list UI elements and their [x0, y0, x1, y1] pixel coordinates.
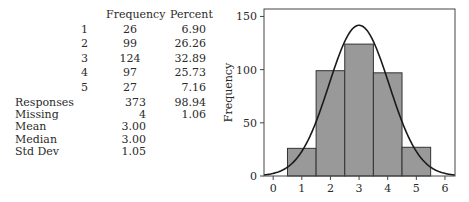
histogram-chart: 0123456050100150Frequency: [0, 0, 469, 202]
histogram-bar: [345, 44, 374, 176]
y-tick-label: 0: [250, 170, 257, 183]
x-tick-label: 3: [356, 182, 363, 195]
y-tick-label: 150: [236, 10, 257, 23]
x-tick-label: 6: [441, 182, 448, 195]
y-tick-label: 50: [243, 117, 257, 130]
y-axis-label: Frequency: [222, 62, 235, 122]
x-tick-label: 4: [384, 182, 391, 195]
y-tick-label: 100: [236, 64, 257, 77]
x-tick-label: 0: [270, 182, 277, 195]
histogram-bar: [373, 73, 402, 176]
x-tick-label: 2: [327, 182, 334, 195]
x-tick-label: 5: [413, 182, 420, 195]
histogram-bar: [316, 71, 345, 176]
x-tick-label: 1: [298, 182, 305, 195]
